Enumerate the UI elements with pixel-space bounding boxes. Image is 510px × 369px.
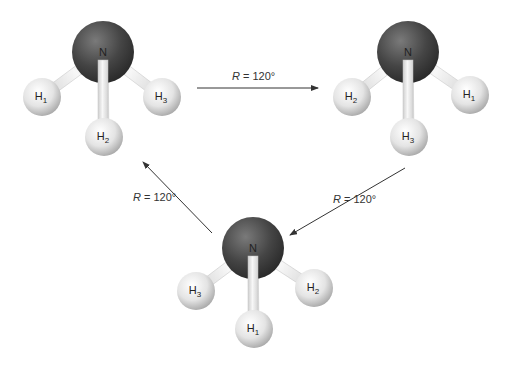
ammonia-rotation-diagram: R = 120°R = 120°R = 120° NH1H2H3NH2H3H1N… [0, 0, 510, 369]
nitrogen-label: N [404, 46, 412, 58]
ammonia-molecule: NH2H3H1 [333, 21, 489, 156]
nitrogen-label: N [99, 46, 107, 58]
rotation-label: R = 120° [333, 193, 376, 205]
ammonia-molecule: NH1H2H3 [23, 21, 181, 156]
rotation-arrow: R = 120° [290, 168, 405, 235]
nitrogen-label: N [249, 242, 257, 254]
rotation-label: R = 120° [133, 191, 176, 203]
rotation-label: R = 120° [232, 70, 275, 82]
ammonia-molecule: NH3H1H2 [177, 217, 333, 348]
rotation-arrow: R = 120° [133, 162, 212, 233]
rotation-arrow: R = 120° [197, 70, 318, 88]
